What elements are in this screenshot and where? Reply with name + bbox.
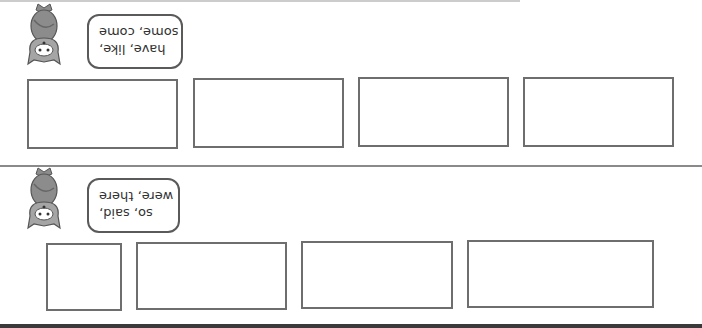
- speech-bubble: so, said, were, there: [87, 178, 180, 233]
- speech-bubble-line-2: some, come: [99, 25, 178, 42]
- worksheet-page: have, like, some, come so, said, were, t…: [0, 0, 702, 328]
- answer-box-3[interactable]: [358, 77, 509, 147]
- page-edge-bar: [0, 324, 702, 328]
- answer-box-4[interactable]: [523, 77, 674, 147]
- speech-bubble: have, like, some, come: [87, 14, 183, 69]
- answer-box-2[interactable]: [136, 242, 287, 310]
- answer-box-4[interactable]: [467, 240, 654, 308]
- top-rule: [0, 0, 520, 2]
- section-divider: [0, 165, 702, 167]
- answer-box-1[interactable]: [46, 243, 122, 311]
- answer-box-3[interactable]: [301, 241, 453, 309]
- cat-character-icon: [24, 2, 66, 68]
- answer-box-2[interactable]: [193, 78, 344, 148]
- answer-box-1[interactable]: [27, 79, 178, 149]
- speech-bubble-line-2: were, there: [99, 189, 173, 206]
- speech-bubble-line-1: so, said,: [99, 206, 153, 223]
- cat-character-icon: [24, 166, 66, 232]
- speech-bubble-line-1: have, like,: [99, 42, 166, 59]
